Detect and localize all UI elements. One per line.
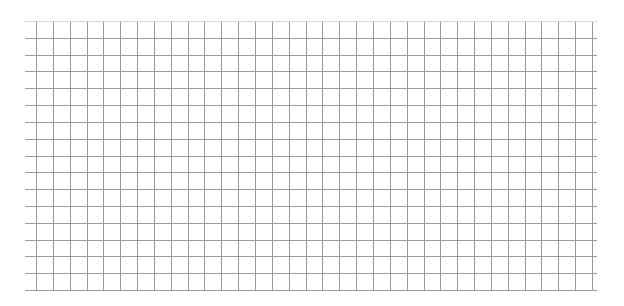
grid-canvas	[0, 0, 624, 306]
grid-lines	[0, 0, 624, 306]
